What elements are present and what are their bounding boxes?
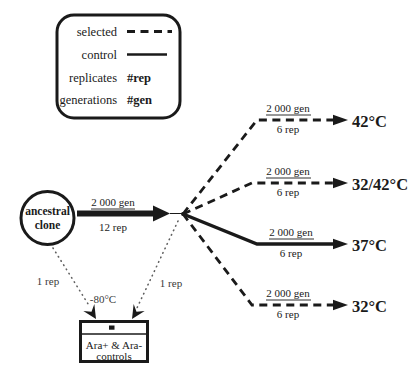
legend-selected-label: selected — [77, 25, 118, 39]
legend: selected control replicates #rep generat… — [57, 15, 180, 118]
left-rep-label: 1 rep — [37, 275, 60, 287]
freezer-handle-icon — [109, 326, 115, 330]
branch-42c-dashed-line — [183, 120, 333, 214]
branch-42c-replicates-label: 6 rep — [277, 123, 300, 135]
right-rep-label: 1 rep — [160, 277, 183, 289]
branch-42c-temperature-label: 42°C — [352, 112, 387, 131]
legend-generations-label: generations — [59, 93, 117, 107]
founding-replicates-label: 12 rep — [99, 221, 127, 233]
freezer-contents-label-line2: controls — [96, 350, 131, 362]
ancestral-clone-label-line1: ancestral — [25, 205, 70, 217]
freezer-contents-label-line1: Ara+ & Ara- — [86, 339, 143, 351]
legend-replicates-value: #rep — [127, 71, 151, 85]
branch-32c-arrowhead-icon — [333, 300, 348, 311]
branch-3242c-replicates-label: 6 rep — [277, 186, 300, 198]
founding-generations-label: 2 000 gen — [91, 196, 135, 208]
evolution-experiment-figure: selected control replicates #rep generat… — [0, 0, 420, 379]
branch-37c: 2 000 gen 6 rep 37°C — [183, 214, 387, 259]
legend-generations-value: #gen — [127, 93, 152, 107]
branch-37c-arrowhead-icon — [333, 239, 348, 250]
legend-control-label: control — [82, 48, 118, 62]
ancestral-clone-node: ancestral clone — [21, 192, 74, 245]
branch-3242c-arrowhead-icon — [333, 178, 348, 189]
minus-80c-label: -80°C — [90, 293, 116, 305]
branch-32c-replicates-label: 6 rep — [277, 308, 300, 320]
right-dotted-arrowhead-icon — [126, 304, 144, 322]
branch-3242c-temperature-label: 32/42°C — [352, 175, 408, 194]
diagram-canvas: selected control replicates #rep generat… — [0, 0, 420, 379]
branch-32c-temperature-label: 32°C — [352, 297, 387, 316]
left-dotted-arrowhead-icon — [83, 304, 101, 322]
branch-32c-generations-label: 2 000 gen — [266, 287, 310, 299]
founding-arrowhead-icon — [153, 206, 170, 222]
branch-3242c: 2 000 gen 6 rep 32/42°C — [183, 165, 408, 214]
founding-arrow: 2 000 gen 12 rep — [77, 196, 185, 233]
branch-3242c-generations-label: 2 000 gen — [266, 165, 310, 177]
branch-42c-generations-label: 2 000 gen — [266, 102, 310, 114]
right-dotted-arrow-line — [137, 221, 178, 308]
legend-replicates-label: replicates — [69, 71, 117, 85]
ancestral-clone-circle — [21, 192, 74, 245]
branch-37c-generations-label: 2 000 gen — [269, 226, 313, 238]
branch-42c-arrowhead-icon — [333, 115, 348, 126]
ancestral-clone-label-line2: clone — [35, 219, 61, 231]
branch-37c-replicates-label: 6 rep — [280, 247, 303, 259]
branch-37c-temperature-label: 37°C — [352, 236, 387, 255]
